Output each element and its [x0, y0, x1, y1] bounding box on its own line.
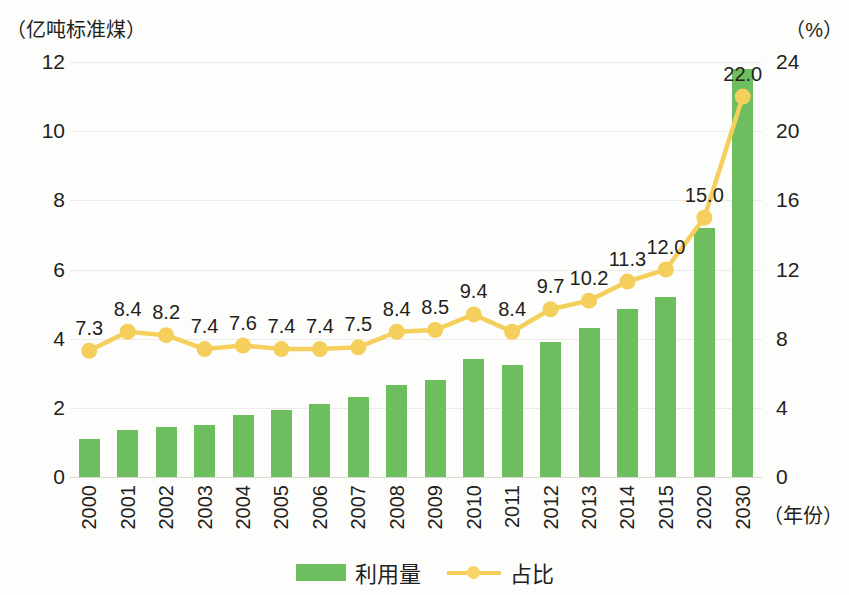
line-marker-2014 — [620, 275, 634, 289]
line-marker-2011 — [505, 325, 519, 339]
point-label-2000: 7.3 — [75, 318, 103, 338]
line-marker-2004 — [236, 339, 250, 353]
y-axis-left-tick-label: 8 — [53, 189, 65, 210]
y-axis-left-tick-label: 4 — [53, 328, 65, 349]
y-axis-left-tick-label: 10 — [42, 120, 65, 141]
x-axis-tick-label-2006: 2006 — [310, 485, 330, 530]
y-axis-right-tick-label: 12 — [776, 259, 799, 280]
y-axis-right-tick-label: 8 — [776, 328, 788, 349]
legend-label-bar: 利用量 — [355, 556, 421, 588]
line-marker-2013 — [582, 294, 596, 308]
line-marker-2007 — [351, 340, 365, 354]
line-marker-2005 — [274, 342, 288, 356]
x-axis-tick-label-2010: 2010 — [464, 485, 484, 530]
chart-page: （亿吨标准煤） （%） （年份） 7.38.48.27.47.67.47.47.… — [0, 0, 849, 595]
y-axis-left-tick-label: 2 — [53, 397, 65, 418]
x-axis-tick-label-2014: 2014 — [617, 485, 637, 530]
point-label-2015: 12.0 — [646, 237, 685, 257]
line-marker-2030 — [736, 90, 750, 104]
x-axis-tick-label-2020: 2020 — [694, 485, 714, 530]
y-axis-right-tick-label: 16 — [776, 189, 799, 210]
legend-label-line: 占比 — [510, 556, 554, 588]
line-marker-2002 — [159, 328, 173, 342]
legend: 利用量 占比 — [0, 556, 849, 588]
line-series — [70, 62, 762, 477]
bar-swatch-icon — [296, 564, 346, 581]
point-label-2011: 8.4 — [498, 299, 526, 319]
line-marker-2020 — [697, 211, 711, 225]
x-axis-tick-label-2012: 2012 — [541, 485, 561, 530]
y-axis-right-tick-label: 0 — [776, 466, 788, 487]
line-marker-2015 — [659, 263, 673, 277]
x-axis-tick-label-2011: 2011 — [502, 485, 522, 528]
line-marker-2001 — [121, 325, 135, 339]
point-label-2008: 8.4 — [383, 299, 411, 319]
point-label-2006: 7.4 — [306, 316, 334, 336]
y-axis-left-tick-label: 0 — [53, 466, 65, 487]
x-axis-tick-label-2003: 2003 — [195, 485, 215, 530]
x-axis-tick-label-2009: 2009 — [425, 485, 445, 530]
line-marker-2000 — [82, 344, 96, 358]
x-axis-title: （年份） — [763, 500, 843, 529]
point-label-2001: 8.4 — [114, 299, 142, 319]
point-label-2030: 22.0 — [723, 64, 762, 84]
line-marker-2008 — [390, 325, 404, 339]
point-label-2005: 7.4 — [268, 316, 296, 336]
line-marker-2009 — [428, 323, 442, 337]
gridline — [70, 477, 762, 478]
y-axis-right-tick-label: 24 — [776, 51, 799, 72]
point-label-2012: 9.7 — [537, 276, 565, 296]
point-label-2003: 7.4 — [191, 316, 219, 336]
y-axis-left-tick-label: 6 — [53, 259, 65, 280]
y-axis-right-tick-label: 4 — [776, 397, 788, 418]
y-axis-right-title: （%） — [785, 14, 843, 43]
y-axis-left-title: （亿吨标准煤） — [6, 14, 146, 43]
point-label-2007: 7.5 — [344, 314, 372, 334]
legend-item-bar[interactable]: 利用量 — [296, 556, 421, 588]
x-axis-tick-label-2013: 2013 — [579, 485, 599, 530]
line-marker-2003 — [198, 342, 212, 356]
point-label-2020: 15.0 — [685, 185, 724, 205]
point-label-2002: 8.2 — [152, 302, 180, 322]
line-path — [89, 97, 743, 351]
x-axis-tick-label-2030: 2030 — [733, 485, 753, 530]
x-axis-tick-label-2004: 2004 — [233, 485, 253, 530]
y-axis-right-tick-label: 20 — [776, 120, 799, 141]
y-axis-left-tick-label: 12 — [42, 51, 65, 72]
x-axis-tick-label-2000: 2000 — [79, 485, 99, 530]
point-label-2010: 9.4 — [460, 281, 488, 301]
line-marker-2006 — [313, 342, 327, 356]
line-marker-2012 — [544, 302, 558, 316]
point-label-2004: 7.6 — [229, 313, 257, 333]
x-axis-tick-label-2008: 2008 — [387, 485, 407, 530]
point-label-2013: 10.2 — [570, 268, 609, 288]
x-axis-tick-label-2015: 2015 — [656, 485, 676, 530]
line-swatch-icon — [447, 564, 501, 581]
x-axis-tick-label-2002: 2002 — [156, 485, 176, 530]
line-marker-2010 — [467, 307, 481, 321]
point-label-2009: 8.5 — [421, 297, 449, 317]
plot-area: 7.38.48.27.47.67.47.47.58.48.59.48.49.71… — [70, 62, 762, 477]
legend-item-line[interactable]: 占比 — [447, 556, 554, 588]
x-axis-tick-label-2001: 2001 — [118, 485, 138, 530]
point-label-2014: 11.3 — [609, 249, 646, 269]
x-axis-tick-label-2005: 2005 — [271, 485, 291, 530]
x-axis-tick-label-2007: 2007 — [348, 485, 368, 530]
